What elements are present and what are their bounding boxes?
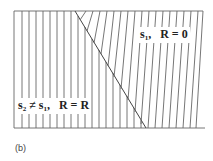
- hatched-diagram: [0, 0, 213, 161]
- separator: ,: [148, 27, 151, 41]
- region-2-label: s2 ≠ s1, R = R: [16, 98, 91, 114]
- relation-text: R = 0: [160, 27, 188, 41]
- separator: ,: [47, 98, 50, 112]
- figure-caption: (b): [15, 143, 26, 153]
- relation-text: R = R: [59, 98, 89, 112]
- region-1-label: s1, R = 0: [138, 27, 190, 43]
- not-equal-sign: ≠: [26, 98, 39, 112]
